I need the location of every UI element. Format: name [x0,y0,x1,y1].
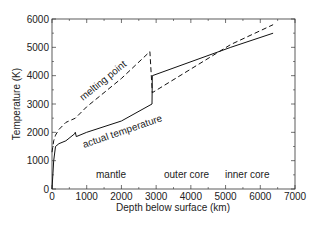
plot-frame [52,19,295,189]
y-axis-title: Temperature (K) [11,68,22,140]
inner-core-label: inner core [225,169,270,180]
actual-temperature-line [52,33,273,189]
x-axis-title: Depth below surface (km) [116,202,230,213]
x-tick-label: 4000 [180,191,203,202]
temperature-depth-chart: 0100020003000400050006000700001000200030… [0,0,321,226]
x-tick-label: 1000 [76,191,99,202]
axes [52,19,295,189]
outer-core-label: outer core [164,169,209,180]
x-tick-label: 6000 [249,191,272,202]
melting-point-label: melting point [77,58,128,102]
y-tick-label: 5000 [27,42,50,53]
x-tick-label: 5000 [214,191,237,202]
actual-temperature-label: actual temperature [81,112,164,150]
series [52,25,273,189]
x-tick-label: 7000 [284,191,307,202]
x-tick-label: 2000 [110,191,133,202]
y-tick-label: 2000 [27,127,50,138]
y-tick-label: 4000 [27,70,50,81]
x-tick-label: 3000 [145,191,168,202]
y-tick-label: 0 [43,184,49,195]
y-tick-label: 6000 [27,14,50,25]
x-tick-label: 0 [49,191,55,202]
y-tick-label: 1000 [27,155,50,166]
mantle-label: mantle [96,169,126,180]
y-tick-label: 3000 [27,99,50,110]
